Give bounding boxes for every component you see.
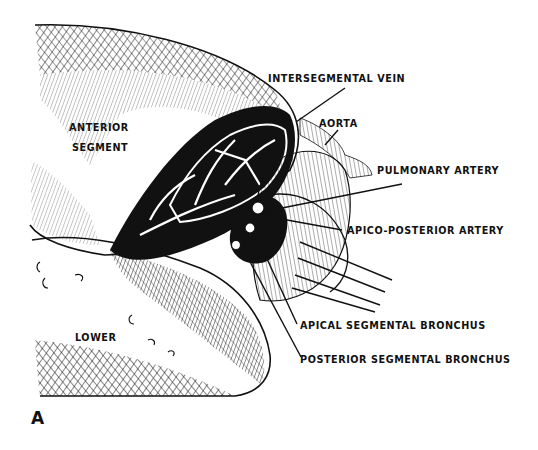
label-aorta: AORTA [319, 118, 358, 129]
label-pulmonary-artery: PULMONARY ARTERY [377, 165, 499, 176]
label-anterior-segment-line2: SEGMENT [72, 142, 128, 153]
label-lower: LOWER [75, 332, 116, 343]
label-posterior-segmental-bronchus: POSTERIOR SEGMENTAL BRONCHUS [300, 354, 511, 365]
label-intersegmental-vein: INTERSEGMENTAL VEIN [268, 73, 405, 84]
panel-letter: A [31, 410, 44, 427]
label-apical-segmental-bronchus: APICAL SEGMENTAL BRONCHUS [300, 320, 486, 331]
lower-lobe-shape [32, 238, 270, 396]
label-anterior-segment-line1: ANTERIOR [69, 122, 129, 133]
label-apico-posterior-artery: APICO-POSTERIOR ARTERY [347, 225, 504, 236]
